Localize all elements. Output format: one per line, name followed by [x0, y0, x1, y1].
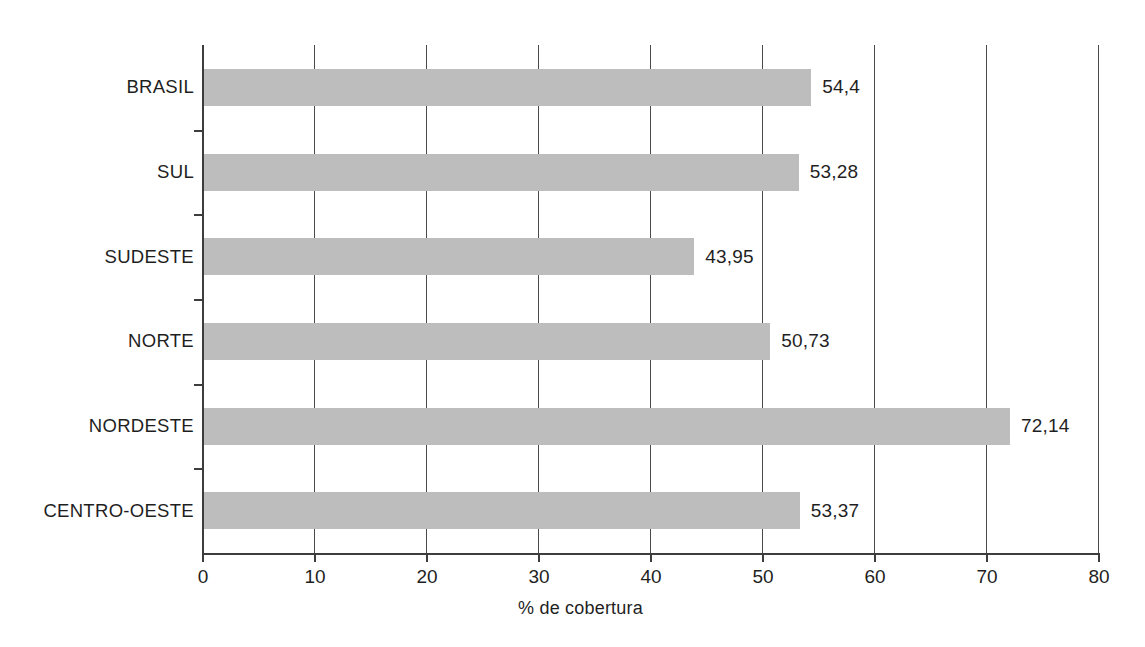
x-axis-tick — [1098, 553, 1100, 562]
category-label: SUDESTE — [4, 246, 194, 268]
bar — [202, 492, 800, 529]
bar-row: 53,28 — [202, 154, 1098, 191]
bar-value-label: 50,73 — [770, 330, 830, 352]
x-axis-tick-label: 0 — [198, 566, 209, 588]
y-axis-tick — [194, 299, 202, 301]
bar-row: 72,14 — [202, 408, 1098, 445]
bar-value-label: 53,28 — [799, 161, 859, 183]
bar-value-label: 54,4 — [811, 76, 860, 98]
bar — [202, 154, 799, 191]
x-axis-tick — [986, 553, 988, 562]
gridline — [762, 45, 763, 553]
x-axis-tick-label: 70 — [976, 566, 997, 588]
x-axis-tick — [762, 553, 764, 562]
x-axis-tick — [650, 553, 652, 562]
bar-row: 54,4 — [202, 69, 1098, 106]
x-axis-tick-label: 30 — [528, 566, 549, 588]
gridline — [426, 45, 427, 553]
x-axis-tick-label: 40 — [640, 566, 661, 588]
bar — [202, 238, 694, 275]
gridline — [538, 45, 539, 553]
bar-value-label: 72,14 — [1010, 415, 1070, 437]
y-axis-tick — [194, 214, 202, 216]
category-label: BRASIL — [4, 76, 194, 98]
x-axis-tick — [202, 553, 204, 562]
x-axis-tick-label: 80 — [1088, 566, 1109, 588]
x-axis-tick-label: 50 — [752, 566, 773, 588]
y-axis-tick — [194, 130, 202, 132]
gridline — [650, 45, 651, 553]
bar-value-label: 43,95 — [694, 246, 754, 268]
bar — [202, 408, 1010, 445]
x-axis-tick-label: 20 — [416, 566, 437, 588]
bar-row: 50,73 — [202, 323, 1098, 360]
y-axis-category-labels: BRASILSULSUDESTENORTENORDESTECENTRO-OEST… — [0, 45, 194, 553]
gridline — [1098, 45, 1099, 553]
x-axis-tick-label: 60 — [864, 566, 885, 588]
bar-chart-figure: BRASILSULSUDESTENORTENORDESTECENTRO-OEST… — [0, 0, 1145, 647]
gridline — [314, 45, 315, 553]
y-axis-tick — [194, 468, 202, 470]
x-axis-tick — [874, 553, 876, 562]
x-axis-tick-label: 10 — [304, 566, 325, 588]
x-axis-title: % de cobertura — [0, 598, 1145, 619]
x-axis-title-label: % de cobertura — [518, 598, 643, 618]
bar-row: 43,95 — [202, 238, 1098, 275]
category-label: CENTRO-OESTE — [4, 500, 194, 522]
y-axis-line — [202, 45, 204, 554]
category-label: SUL — [4, 161, 194, 183]
gridline — [986, 45, 987, 553]
category-label: NORDESTE — [4, 415, 194, 437]
x-axis-tick — [538, 553, 540, 562]
x-axis-tick — [314, 553, 316, 562]
bar — [202, 69, 811, 106]
category-label: NORTE — [4, 330, 194, 352]
x-axis-tick — [426, 553, 428, 562]
plot-area: 54,453,2843,9550,7372,1453,37 — [202, 45, 1098, 553]
y-axis-tick — [194, 384, 202, 386]
bar-row: 53,37 — [202, 492, 1098, 529]
bar-value-label: 53,37 — [800, 500, 860, 522]
bar — [202, 323, 770, 360]
gridline — [874, 45, 875, 553]
